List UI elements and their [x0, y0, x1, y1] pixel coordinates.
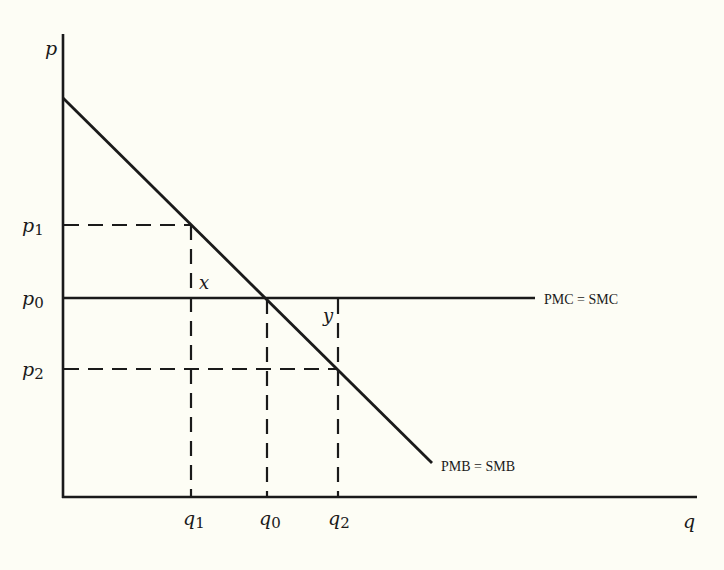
p1-label: p1 — [22, 214, 44, 239]
area-x-label: x — [199, 272, 209, 293]
q0-label: q0 — [259, 507, 281, 532]
cost-curve-label: PMC = SMC — [544, 292, 618, 307]
x-axis-label: q — [683, 510, 695, 532]
y-axis-label: p — [45, 37, 57, 59]
q2-label: q2 — [328, 507, 350, 532]
benefit-curve — [63, 98, 432, 463]
p0-label: p0 — [22, 287, 44, 312]
area-y-label: y — [322, 305, 334, 326]
q1-label: q1 — [183, 507, 205, 532]
diagram-canvas: p q p1 p0 p2 q1 q0 q2 PMC = SMC PMB = SM… — [0, 0, 724, 570]
p2-label: p2 — [22, 358, 44, 383]
benefit-curve-label: PMB = SMB — [441, 459, 515, 474]
guide-lines — [64, 225, 338, 497]
